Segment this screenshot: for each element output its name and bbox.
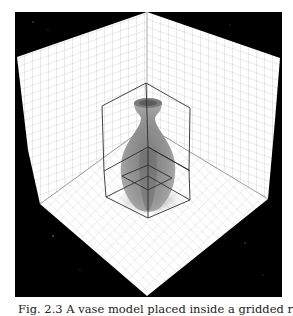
- figure-caption: Fig. 2.3 A vase model placed inside a gr…: [18, 302, 293, 316]
